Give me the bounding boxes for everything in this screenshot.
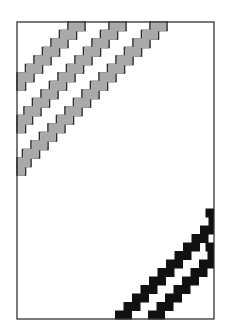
staircase-diagram <box>0 0 230 331</box>
black-band-1-step <box>141 285 158 294</box>
black-band-1-step <box>132 294 149 303</box>
black-band-1-step <box>158 268 175 277</box>
black-band-1-step <box>175 251 192 260</box>
black-band-1-step <box>166 260 183 269</box>
black-band-2-step <box>199 260 214 269</box>
black-band-2-step <box>182 277 199 286</box>
black-band-1-step <box>209 217 215 226</box>
black-staircase-bands <box>115 209 214 320</box>
black-band-2-step <box>208 251 215 260</box>
black-band-2-step <box>157 302 174 311</box>
black-band-2-cap <box>206 243 215 252</box>
black-band-1-step <box>183 243 200 252</box>
black-band-1-step <box>115 311 132 320</box>
black-band-1-step <box>124 302 141 311</box>
gray-staircase-bands <box>17 21 167 176</box>
black-band-1-step <box>149 277 166 286</box>
black-band-1-step <box>192 234 209 243</box>
black-band-2-step <box>165 294 182 303</box>
black-band-2-step <box>191 268 208 277</box>
black-band-1-step <box>200 226 214 235</box>
black-band-1-cap <box>206 209 215 218</box>
black-band-2-step <box>148 311 165 320</box>
black-band-2-step <box>174 285 191 294</box>
